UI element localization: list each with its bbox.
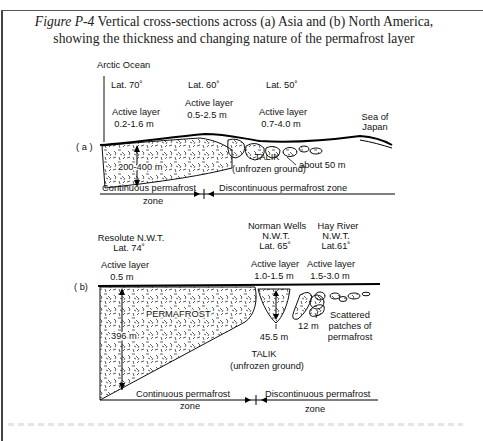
active-layer-1-title: Active layer: [112, 107, 160, 117]
thickness-label-a: 200-400 m: [118, 162, 163, 172]
active-layer-2-value: 0.5-2.5 m: [187, 110, 227, 120]
active-layer-1-value-b: 0.5 m: [110, 272, 134, 282]
talik-subtitle-a: (unfrozen ground): [232, 164, 306, 174]
norman-wells-depth: 45.5 m: [260, 332, 289, 342]
lat-50-label: Lat. 50˚: [266, 80, 298, 90]
lat-60-label: Lat. 60˚: [188, 80, 220, 90]
sea-of-japan-line2: Japan: [362, 122, 387, 132]
cropped-text-line: [8, 423, 463, 426]
resolute-lat: Lat. 74˚: [113, 243, 145, 253]
norman-wells-lat: Lat. 65˚: [259, 241, 291, 251]
thickness-label-b: 396 m: [111, 331, 137, 341]
active-layer-3-title-b: Active layer: [307, 259, 355, 269]
active-layer-1-title-b: Active layer: [101, 260, 149, 270]
active-layer-2-value-b: 1.0-1.5 m: [254, 271, 294, 281]
sea-of-japan-line1: Sea of: [362, 112, 389, 122]
norman-wells-region: N.W.T.: [262, 231, 289, 241]
scattered-label-1: Scattered: [330, 310, 370, 320]
coast-line-a: [360, 140, 392, 148]
zone-arrow-right: [245, 397, 251, 403]
ground-surface-b: [98, 284, 380, 286]
lat-70-label: Lat. 70˚: [111, 80, 143, 90]
active-layer-3-value: 0.7-4.0 m: [261, 119, 301, 129]
hay-river-depth: 12 m: [298, 321, 319, 331]
continuous-zone-b-line2: zone: [180, 401, 200, 411]
norman-wells-name: Norman Wells: [248, 221, 307, 231]
hay-river-lat: Lat.61˚: [322, 241, 351, 251]
scattered-label-3: permafrost: [328, 332, 373, 342]
discontinuous-zone-b-line1: Discontinuous permafrost: [265, 389, 371, 399]
talik-title-b: TALIK: [251, 349, 277, 359]
permafrost-label: PERMAFROST: [146, 309, 211, 319]
continuous-zone-b-line1: Continuous permafrost: [136, 389, 230, 399]
arctic-ocean-label: Arctic Ocean: [97, 60, 150, 70]
hay-river-region: N.W.T.: [322, 231, 349, 241]
zone-arrow-left: [208, 191, 214, 197]
active-layer-3-value-b: 1.5-3.0 m: [310, 271, 350, 281]
active-layer-2-title: Active layer: [185, 98, 233, 108]
scattered-label-2: patches of: [329, 321, 372, 331]
talik-subtitle-b: (unfrozen ground): [230, 361, 304, 371]
talik-title-a: TALIK: [254, 152, 280, 162]
active-layer-1-value: 0.2-1.6 m: [114, 119, 154, 129]
continuous-zone-a-line2: zone: [143, 196, 163, 206]
resolute-name: Resolute N.W.T.: [98, 233, 165, 243]
about-50m-label: about 50 m: [299, 160, 346, 170]
diagram-b: Resolute N.W.T. Lat. 74˚ Active layer 0.…: [74, 221, 380, 414]
discontinuous-zone-b-line2: zone: [305, 404, 325, 414]
hay-river-name: Hay River: [318, 221, 359, 231]
discontinuous-zone-a: Discontinuous permafrost zone: [219, 183, 347, 193]
diagram-a: Arctic Ocean Lat. 70˚ Lat. 60˚ Lat. 50˚ …: [76, 60, 395, 206]
active-layer-3-title: Active layer: [259, 107, 307, 117]
continuous-zone-a-line1: Continuous permafrost: [102, 183, 196, 193]
panel-label-a: ( a ): [76, 142, 93, 152]
active-layer-2-title-b: Active layer: [251, 259, 299, 269]
panel-label-b: ( b): [74, 282, 88, 292]
